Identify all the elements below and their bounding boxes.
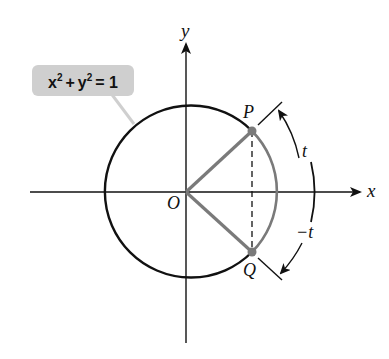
radius-oq: [186, 192, 252, 252]
unit-circle-diagram: x2+y2= 1 y x O P Q t −t: [0, 0, 389, 359]
callout-leader: [110, 92, 134, 124]
arc-label-neg-t: −t: [296, 222, 314, 242]
x-axis-label: x: [366, 180, 376, 201]
arc-neg-t-arrow: [281, 243, 302, 273]
point-q-label: Q: [243, 260, 256, 280]
origin-label: O: [167, 193, 180, 213]
y-axis-label: y: [179, 20, 190, 41]
arc-label-t: t: [302, 141, 308, 161]
arc-t-arrow: [279, 111, 299, 158]
point-p-label: P: [242, 102, 254, 122]
radius-op: [186, 131, 252, 192]
tick-q: [258, 258, 282, 280]
point-p: [248, 127, 257, 136]
tick-p: [258, 102, 282, 125]
point-q: [248, 248, 257, 257]
